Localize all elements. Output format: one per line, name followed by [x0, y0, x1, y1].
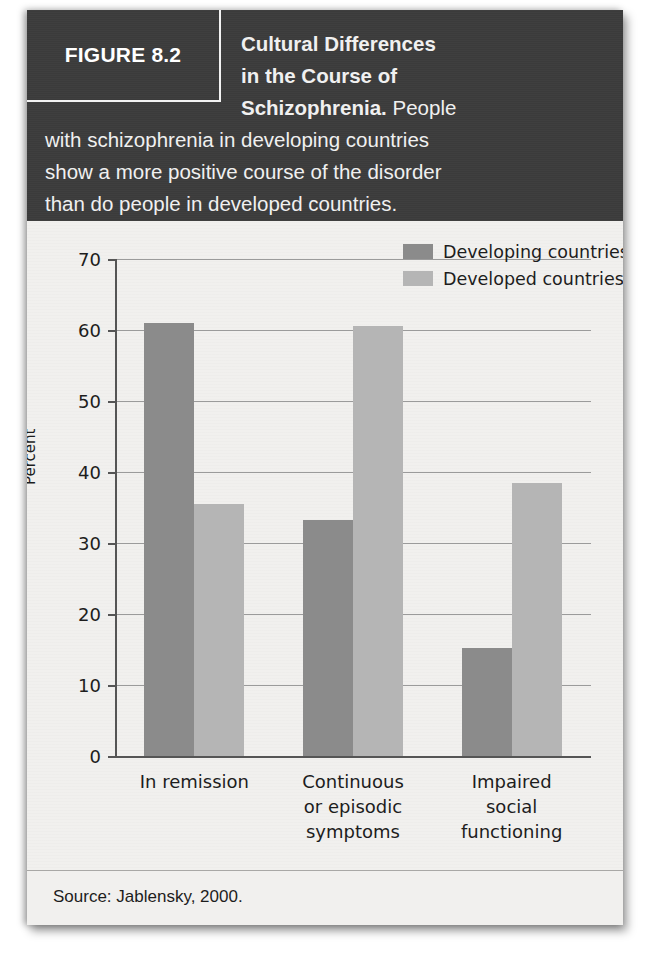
legend-swatch-0: [403, 244, 433, 259]
x-category-line: symptoms: [274, 819, 433, 844]
x-category-line: Continuous: [274, 769, 433, 794]
y-tick-label-30: 30: [59, 533, 101, 554]
x-category-label-1: Continuousor episodicsymptoms: [274, 769, 433, 844]
y-tick-mark-70: [108, 259, 115, 261]
y-tick-mark-0: [108, 756, 115, 758]
x-category-line: Impaired: [432, 769, 591, 794]
bar-0-2: [462, 648, 512, 756]
figure-caption-line-1: Cultural Differences: [241, 32, 436, 55]
y-tick-mark-60: [108, 330, 115, 332]
bar-1-0: [194, 504, 244, 756]
legend-swatch-1: [403, 271, 433, 286]
figure-caption: Cultural Differences in the Course of Sc…: [45, 28, 605, 220]
legend-label-0: Developing countries: [443, 242, 623, 262]
figure-caption-line-6: than do people in developed countries.: [45, 192, 397, 215]
figure-card: FIGURE 8.2 Cultural Differences in the C…: [27, 10, 623, 925]
y-tick-label-70: 70: [59, 249, 101, 270]
y-tick-mark-20: [108, 614, 115, 616]
source-citation: Source: Jablensky, 2000.: [53, 887, 243, 907]
y-tick-label-0: 0: [59, 746, 101, 767]
y-tick-mark-30: [108, 543, 115, 545]
legend-item-1[interactable]: Developed countries: [403, 266, 603, 291]
chart-plot-area: Percent Developing countriesDeveloped co…: [27, 221, 623, 871]
x-category-line: functioning: [432, 819, 591, 844]
bar-0-0: [144, 323, 194, 756]
x-category-line: social: [432, 794, 591, 819]
figure-caption-line-5: show a more positive course of the disor…: [45, 160, 442, 183]
figure-caption-line-4: with schizophrenia in developing countri…: [45, 128, 429, 151]
figure-caption-line-3-bold: Schizophrenia.: [241, 96, 387, 119]
y-tick-label-60: 60: [59, 320, 101, 341]
figure-caption-title: Cultural Differences in the Course of Sc…: [241, 28, 541, 124]
bar-1-2: [512, 483, 562, 756]
y-tick-label-10: 10: [59, 675, 101, 696]
figure-header: FIGURE 8.2 Cultural Differences in the C…: [27, 10, 623, 221]
x-category-label-2: Impairedsocialfunctioning: [432, 769, 591, 844]
x-category-label-0: In remission: [115, 769, 274, 794]
y-tick-label-40: 40: [59, 462, 101, 483]
y-tick-label-20: 20: [59, 604, 101, 625]
y-tick-label-50: 50: [59, 391, 101, 412]
figure-caption-line-3-rest: People: [387, 96, 457, 119]
x-axis-line: [115, 756, 591, 758]
source-divider: [27, 870, 623, 872]
y-axis-title: Percent: [27, 429, 39, 485]
figure-page: FIGURE 8.2 Cultural Differences in the C…: [0, 0, 653, 953]
x-category-line: In remission: [115, 769, 274, 794]
y-tick-mark-10: [108, 685, 115, 687]
figure-caption-body: with schizophrenia in developing countri…: [45, 124, 607, 220]
y-tick-mark-50: [108, 401, 115, 403]
bar-0-1: [303, 520, 353, 756]
y-axis-line: [115, 259, 117, 757]
chart-legend: Developing countriesDeveloped countries: [403, 239, 603, 293]
legend-label-1: Developed countries: [443, 269, 623, 289]
bar-1-1: [353, 326, 403, 756]
legend-item-0[interactable]: Developing countries: [403, 239, 603, 264]
y-tick-mark-40: [108, 472, 115, 474]
x-category-line: or episodic: [274, 794, 433, 819]
figure-caption-line-2: in the Course of: [241, 64, 397, 87]
